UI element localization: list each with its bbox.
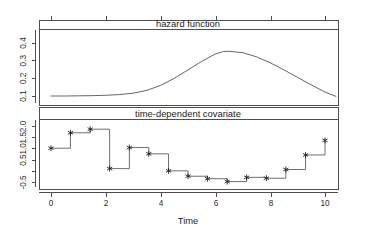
survival-plot-svg: hazard function 0.1 0.2: [0, 0, 369, 234]
xtick-label-6: 6: [214, 199, 219, 208]
figure-container: hazard function 0.1 0.2: [0, 0, 369, 234]
xtick-label-8: 8: [269, 199, 274, 208]
xtick-label-4: 4: [159, 199, 164, 208]
top-panel-title: hazard function: [156, 18, 220, 29]
bottom-panel-y-axis: [32, 120, 36, 187]
bottom-ytick-label-1-0: 1.0: [19, 143, 28, 155]
top-panel-y-tick-labels: 0.1 0.2 0.3 0.4: [19, 37, 28, 102]
bottom-ytick-label-2-0: 2.0: [19, 120, 28, 132]
x-axis-tick-labels: 0 2 4 6 8 10: [49, 199, 330, 208]
hazard-function-curve: [51, 51, 336, 96]
bottom-ytick-label-1-5: 1.5: [19, 132, 28, 144]
top-ytick-label-0-2: 0.2: [19, 72, 28, 84]
x-axis-ticks: [51, 193, 325, 197]
bottom-ytick-label-0-5: 0.5: [19, 154, 28, 166]
top-panel-group: hazard function 0.1 0.2: [19, 16, 338, 105]
covariate-marker: [322, 137, 327, 143]
top-ytick-label-0-3: 0.3: [19, 55, 28, 67]
top-ytick-label-0-1: 0.1: [19, 90, 28, 102]
bottom-ytick-label--0-5: -0.5: [19, 175, 28, 190]
bottom-panel-group: time-dependent covariate -0.5 0.5 1.0 1.…: [19, 107, 338, 190]
top-panel-box: [39, 20, 338, 105]
xtick-label-0: 0: [49, 199, 54, 208]
top-panel-y-axis: [32, 30, 36, 103]
x-axis-title: Time: [178, 215, 198, 226]
xtick-label-10: 10: [320, 199, 330, 208]
top-ytick-label-0-4: 0.4: [19, 37, 28, 49]
bottom-panel-title: time-dependent covariate: [135, 108, 241, 119]
x-axis-group: 0 2 4 6 8 10 Time: [39, 193, 338, 227]
xtick-label-2: 2: [104, 199, 109, 208]
bottom-panel-y-tick-labels: -0.5 0.5 1.0 1.5 2.0: [19, 120, 28, 189]
